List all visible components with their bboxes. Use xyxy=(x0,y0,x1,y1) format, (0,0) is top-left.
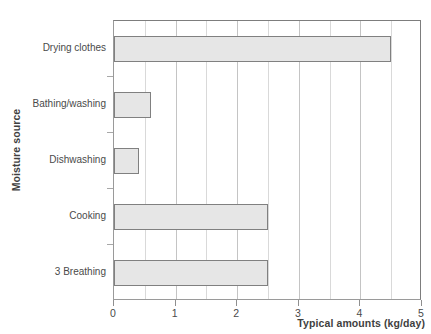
gridline-major xyxy=(237,21,238,299)
y-axis-tick xyxy=(107,132,113,133)
category-label: 3 Breathing xyxy=(55,265,106,279)
bar-cooking xyxy=(114,204,268,230)
gridline-minor xyxy=(330,21,331,299)
gridline-minor xyxy=(145,21,146,299)
y-axis-tick xyxy=(107,188,113,189)
category-label-column: Drying clothesBathing/washingDishwashing… xyxy=(24,20,110,300)
x-axis-tick xyxy=(236,300,237,306)
gridline-major xyxy=(360,21,361,299)
x-axis-tick xyxy=(113,300,114,306)
x-axis-tick xyxy=(359,300,360,306)
y-axis-title-text: Moisture source xyxy=(10,109,22,192)
category-label: Drying clothes xyxy=(43,41,106,55)
bar-dishwashing xyxy=(114,148,139,174)
x-axis-tick xyxy=(421,300,422,306)
category-label: Cooking xyxy=(69,209,106,223)
gridline-minor xyxy=(268,21,269,299)
y-axis-tick xyxy=(107,244,113,245)
plot-area xyxy=(113,20,421,300)
bar-drying-clothes xyxy=(114,36,391,62)
category-label: Bathing/washing xyxy=(33,97,106,111)
gridline-major xyxy=(176,21,177,299)
gridline-minor xyxy=(391,21,392,299)
gridline-minor xyxy=(206,21,207,299)
x-axis-tick xyxy=(175,300,176,306)
bar-bathing-washing xyxy=(114,92,151,118)
bar-3-breathing xyxy=(114,260,268,286)
x-axis-tick xyxy=(298,300,299,306)
y-axis-tick xyxy=(107,76,113,77)
gridline-major xyxy=(299,21,300,299)
x-axis-title: Typical amounts (kg/day) xyxy=(0,317,425,329)
bar-chart: Moisture source Drying clothesBathing/wa… xyxy=(0,0,431,334)
category-label: Dishwashing xyxy=(49,153,106,167)
